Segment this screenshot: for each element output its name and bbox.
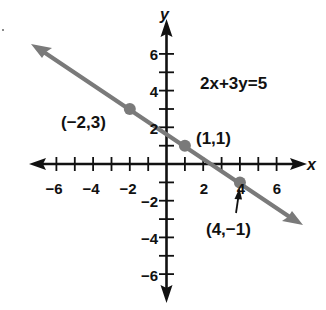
stray-dot (2, 29, 4, 31)
x-tick-label: −6 (45, 180, 62, 197)
y-tick-label: 4 (150, 83, 159, 100)
coordinate-plane: x y −6 −4 −2 2 4 6 6 4 2 −2 −4 −6 2x+3y=… (0, 0, 326, 310)
x-tick-label: −4 (82, 180, 100, 197)
x-axis-label: x (306, 156, 317, 173)
point-1-1 (179, 140, 191, 152)
y-tick-label: −6 (141, 267, 158, 284)
y-tick-label: −4 (141, 230, 159, 247)
x-tick-label: 4 (237, 180, 246, 197)
equation-label: 2x+3y=5 (200, 74, 267, 93)
y-tick-label: 2 (150, 120, 158, 137)
y-tick-label: −2 (141, 193, 158, 210)
y-axis-label: y (159, 6, 170, 23)
y-tick-label: 6 (150, 46, 158, 63)
point-label-neg2-3: (−2,3) (61, 113, 106, 132)
x-tick-label: −2 (119, 180, 136, 197)
point-neg2-3 (124, 103, 136, 115)
y-axis (159, 19, 174, 303)
x-axis (29, 157, 307, 171)
point-label-1-1: (1,1) (196, 129, 231, 148)
x-tick-label: 2 (200, 180, 208, 197)
point-label-4-neg1: (4,−1) (206, 220, 251, 239)
x-tick-label: 6 (273, 180, 281, 197)
